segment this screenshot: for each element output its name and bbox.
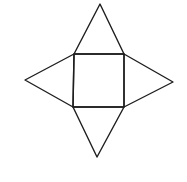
triangle-right bbox=[124, 54, 173, 107]
triangle-top bbox=[74, 4, 124, 54]
square-base bbox=[73, 54, 124, 107]
diagram-canvas bbox=[0, 0, 187, 182]
triangle-bottom bbox=[73, 107, 124, 157]
triangle-left bbox=[25, 54, 74, 107]
pyramid-net-figure bbox=[0, 0, 187, 182]
